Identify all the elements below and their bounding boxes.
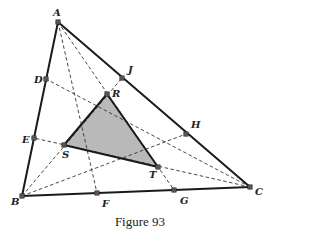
point-a [56,20,60,24]
label-g: G [180,195,189,206]
label-c: C [255,186,263,197]
point-labels: A B C D E F G H J R S T [10,7,263,209]
point-c [248,185,252,189]
label-a: A [52,7,61,18]
side-ab [22,22,58,196]
geometry-figure: A B C D E F G H J R S T Figure 93 [0,0,329,233]
point-d [44,77,48,81]
label-r: R [111,88,120,99]
figure-caption: Figure 93 [115,214,165,229]
label-b: B [10,196,19,207]
label-e: E [21,134,30,145]
label-t: T [149,169,158,180]
point-s [62,143,66,147]
point-t [156,165,160,169]
point-f [95,191,99,195]
cevian-lines [22,22,250,196]
point-j [120,76,124,80]
label-h: H [190,119,201,130]
label-j: J [126,64,134,75]
dashed-line-af [58,22,97,193]
point-e [32,136,36,140]
triangle-sides [22,22,250,196]
label-d: D [33,74,43,85]
label-s: S [62,149,69,160]
point-g [172,188,176,192]
point-h [184,132,188,136]
point-b [20,194,24,198]
label-f: F [101,198,110,209]
points [20,20,252,198]
point-r [105,92,109,96]
side-bc [22,187,250,196]
